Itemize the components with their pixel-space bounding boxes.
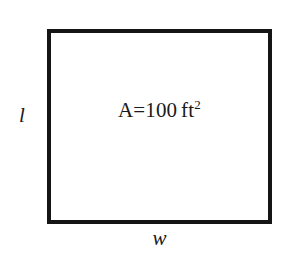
length-dimension-label: l — [0, 105, 44, 126]
area-value: 100 — [145, 98, 177, 122]
area-annotation: A=100ft2 — [47, 100, 272, 121]
rectangle-shape — [47, 29, 272, 224]
diagram-canvas: A=100ft2 l w — [0, 0, 287, 263]
area-unit: ft — [181, 98, 194, 122]
width-dimension-label: w — [47, 228, 272, 249]
area-operator: = — [133, 98, 145, 122]
area-unit-exponent: 2 — [194, 97, 201, 112]
area-variable: A — [118, 98, 133, 122]
